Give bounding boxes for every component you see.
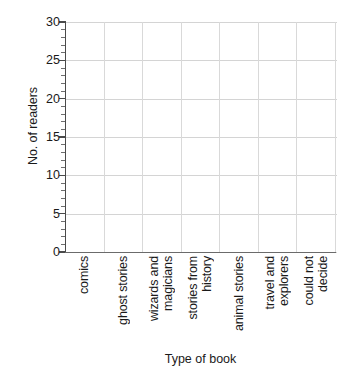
y-tick-minor	[61, 83, 65, 84]
x-category-label-line: explorers	[277, 256, 291, 306]
x-category-label: could notdecide	[296, 256, 335, 356]
y-tick-minor	[61, 236, 65, 237]
x-category-label: animal stories	[219, 256, 258, 356]
y-tick-minor	[61, 106, 65, 107]
y-tick-label: 20	[26, 93, 60, 105]
y-tick-minor	[61, 183, 65, 184]
y-tick-minor	[61, 244, 65, 245]
y-axis-tick-labels: 051015202530	[22, 0, 60, 365]
y-tick-label: 15	[26, 131, 60, 143]
y-tick-minor	[61, 144, 65, 145]
gridline-vertical	[335, 22, 336, 253]
x-category-label-line: comics	[77, 256, 91, 294]
y-tick-label: 30	[26, 16, 60, 28]
y-tick-minor	[61, 75, 65, 76]
gridline-vertical	[142, 22, 143, 253]
x-category-label-lines: ghost stories	[116, 256, 130, 325]
y-tick-minor	[61, 91, 65, 92]
y-tick-minor	[61, 206, 65, 207]
x-category-label: wizards andmagicians	[142, 256, 181, 356]
gridline-vertical	[181, 22, 182, 253]
gridline-vertical	[219, 22, 220, 253]
x-category-label-line: could not	[302, 256, 316, 305]
x-category-label-line: animal stories	[232, 256, 246, 331]
x-category-label-line: ghost stories	[116, 256, 130, 325]
x-category-label: ghost stories	[104, 256, 143, 356]
y-tick-minor	[61, 160, 65, 161]
x-category-label: comics	[65, 256, 104, 356]
x-category-label-line: wizards and	[147, 256, 161, 321]
x-category-label-lines: could notdecide	[302, 256, 330, 305]
y-tick-minor	[61, 229, 65, 230]
x-axis-title: Type of book	[65, 352, 336, 366]
y-axis-line	[65, 21, 66, 253]
gridline-vertical	[258, 22, 259, 253]
y-tick-minor	[61, 52, 65, 53]
y-tick-minor	[61, 190, 65, 191]
y-tick-minor	[61, 198, 65, 199]
y-tick-minor	[61, 68, 65, 69]
x-axis-category-labels: comicsghost storieswizards andmagicianss…	[65, 256, 336, 356]
y-tick-minor	[61, 221, 65, 222]
y-tick-minor	[61, 121, 65, 122]
x-category-label-line: magicians	[161, 256, 175, 311]
x-category-label-line: travel and	[263, 256, 277, 309]
x-category-label-lines: comics	[77, 256, 91, 294]
x-category-label: stories fromhistory	[181, 256, 220, 356]
y-tick-minor	[61, 29, 65, 30]
y-tick-minor	[61, 129, 65, 130]
x-category-label-line: history	[200, 256, 214, 292]
y-tick-label: 0	[26, 246, 60, 258]
x-category-label-lines: wizards andmagicians	[147, 256, 175, 321]
x-category-label-lines: stories fromhistory	[186, 256, 214, 320]
x-category-label-lines: animal stories	[232, 256, 246, 331]
x-category-label-line: decide	[316, 256, 330, 292]
y-tick-label: 10	[26, 169, 60, 181]
y-tick-label: 5	[26, 208, 60, 220]
x-category-label-lines: travel andexplorers	[263, 256, 291, 309]
x-category-label-line: stories from	[186, 256, 200, 320]
y-tick-minor	[61, 45, 65, 46]
gridline-vertical	[104, 22, 105, 253]
y-tick-minor	[61, 152, 65, 153]
y-tick-label: 25	[26, 54, 60, 66]
x-category-label: travel andexplorers	[258, 256, 297, 356]
y-tick-minor	[61, 37, 65, 38]
gridline-vertical	[296, 22, 297, 253]
x-axis-line	[65, 252, 336, 253]
y-tick-minor	[61, 114, 65, 115]
plot-area	[65, 22, 335, 252]
y-tick-minor	[61, 167, 65, 168]
